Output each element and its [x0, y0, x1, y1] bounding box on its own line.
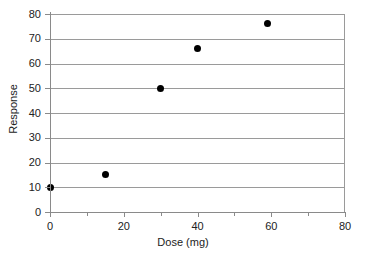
y-tick-mark-70 [45, 39, 50, 40]
x-tick-label-40: 40 [178, 221, 218, 232]
x-tick-mark-20 [124, 212, 125, 217]
y-tick-mark-60 [45, 64, 50, 65]
gridline-y-50 [50, 88, 345, 89]
y-tick-mark-20 [45, 163, 50, 164]
y-tick-label-0: 0 [11, 207, 41, 218]
plot-frame-right-edge [344, 14, 345, 212]
x-axis-title: Dose (mg) [0, 236, 366, 248]
y-tick-mark-0 [45, 212, 50, 213]
x-tick-label-20: 20 [104, 221, 144, 232]
y-tick-mark-50 [45, 88, 50, 89]
scatter-chart-figure: 01020304050607080 020406080 Dose (mg) Re… [0, 0, 366, 261]
x-tick-mark-40 [198, 212, 199, 217]
plot-area [50, 14, 345, 212]
data-point [194, 45, 201, 52]
y-tick-mark-80 [45, 14, 50, 15]
gridline-y-70 [50, 39, 345, 40]
y-axis-title: Response [7, 49, 19, 169]
gridline-y-10 [50, 187, 345, 188]
y-tick-label-70: 70 [11, 33, 41, 44]
data-point [102, 171, 109, 178]
x-tick-label-60: 60 [251, 221, 291, 232]
y-tick-mark-10 [45, 187, 50, 188]
y-axis-line [50, 12, 51, 214]
x-tick-mark-0 [50, 212, 51, 217]
x-tick-minor-50 [234, 212, 235, 216]
gridline-y-60 [50, 64, 345, 65]
gridline-y-80 [50, 14, 345, 15]
y-tick-label-10: 10 [11, 182, 41, 193]
x-tick-minor-10 [87, 212, 88, 216]
data-point [157, 85, 164, 92]
x-tick-minor-30 [161, 212, 162, 216]
gridline-y-20 [50, 163, 345, 164]
y-tick-mark-40 [45, 113, 50, 114]
gridline-y-40 [50, 113, 345, 114]
y-tick-label-80: 80 [11, 9, 41, 20]
y-tick-mark-30 [45, 138, 50, 139]
x-tick-label-80: 80 [325, 221, 365, 232]
data-point [264, 20, 271, 27]
x-tick-minor-70 [308, 212, 309, 216]
x-tick-mark-60 [271, 212, 272, 217]
gridline-y-30 [50, 138, 345, 139]
x-tick-mark-80 [345, 212, 346, 217]
x-tick-label-0: 0 [30, 221, 70, 232]
